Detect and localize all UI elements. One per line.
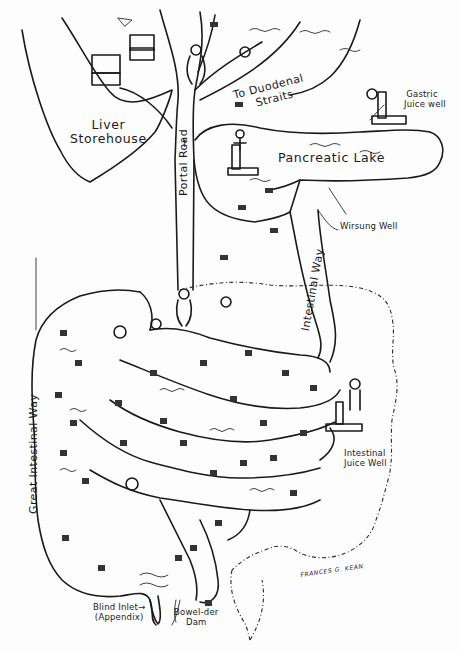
dam-text: Dam [174,618,219,628]
intestinal-juice-well-label: Intestinal Juice Well [344,449,387,469]
gastric-juice-well-label: Gastric Juice well [404,90,446,110]
bowel-der-dam-label: Bowel-der Dam [174,608,219,628]
digestive-map-drawing [0,0,460,651]
great-intestinal-way-text: Great Intestinal Way [27,394,40,514]
liver-outline [22,18,172,182]
great-intestinal-way-label: Great Intestinal Way [28,394,41,514]
liver-label-line2: Storehouse [70,132,147,146]
liver-label-line1: Liver [70,118,147,132]
portal-road-up-arrow-icon: ↑ [180,138,189,150]
pancreatic-lake-label: Pancreatic Lake [278,151,385,165]
blind-inlet-text: Blind Inlet [93,602,138,612]
wirsung-well-label: Wirsung Well [340,222,398,232]
wirsung-well-text: Wirsung Well [340,221,398,231]
blind-inlet-label: Blind Inlet→ (Appendix) [93,603,145,623]
gastric-label-line2: Juice well [404,100,446,110]
crate-icons [92,18,154,85]
liver-storehouse-label: Liver Storehouse [70,118,147,147]
pancreatic-lake-outline [194,124,443,222]
appendix-text: (Appendix) [93,613,145,623]
intestinal-juice-label-line2: Juice Well [344,459,387,469]
small-intestine-loops [80,328,340,602]
right-arrow-icon: → [138,602,145,612]
illustration-canvas: Liver Storehouse Portal Road ↑ To Duoden… [0,0,460,651]
food-basket-icons [55,22,317,606]
pancreatic-lake-text: Pancreatic Lake [278,150,385,165]
